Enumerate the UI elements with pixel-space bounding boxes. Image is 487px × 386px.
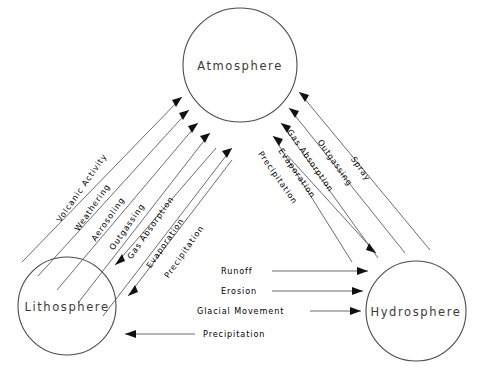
flow-precipitation-litho: [128, 160, 232, 296]
flow-spray: [299, 92, 430, 250]
flow-weathering: [38, 110, 189, 276]
flow-outgassing-hydro: [289, 108, 405, 253]
flow-precipitation-litho-horiz: [125, 330, 195, 338]
flow-evaporation-hydro: [273, 136, 352, 262]
flow-erosion: [272, 287, 363, 295]
hydrosphere-circle: [366, 261, 466, 361]
flow-outgassing-litho: [78, 133, 210, 303]
flow-gas-absorption-litho: [103, 148, 232, 316]
flow-aerosoling: [57, 123, 198, 290]
cycle-diagram: Atmosphere Lithosphere Hydrosphere Volca…: [0, 0, 487, 386]
flow-gas-absorption-hydro: [281, 123, 378, 258]
flow-runoff: [272, 267, 368, 275]
diagram-canvas: [0, 0, 487, 386]
atmosphere-circle: [183, 8, 297, 122]
lithosphere-circle: [18, 257, 116, 355]
flow-glacial-movement: [310, 307, 361, 315]
flow-precipitation-hydro: [287, 155, 376, 253]
